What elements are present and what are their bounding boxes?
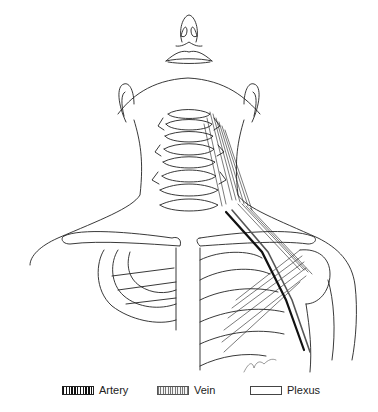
cervical-spine	[152, 110, 226, 212]
ears	[119, 84, 259, 122]
legend-item-plexus: Plexus	[250, 384, 320, 396]
jawline	[118, 78, 260, 114]
artist-signature	[244, 359, 276, 372]
neck-outline	[30, 120, 356, 360]
anatomical-illustration	[0, 0, 378, 412]
legend-item-vein: Vein	[157, 384, 215, 396]
nose	[176, 15, 202, 46]
legend-label-artery: Artery	[99, 384, 128, 396]
artery-swatch-icon	[62, 386, 94, 395]
shoulder-joint	[300, 250, 334, 372]
plexus-swatch-icon	[250, 386, 282, 395]
legend-item-artery: Artery	[62, 384, 128, 396]
legend: Artery Vein Plexus	[0, 384, 378, 404]
clavicles	[62, 232, 315, 246]
vein-swatch-icon	[157, 386, 189, 395]
mouth	[166, 51, 212, 63]
legend-label-plexus: Plexus	[287, 384, 320, 396]
rib-cage-right	[200, 248, 284, 370]
brachial-plexus	[222, 204, 312, 352]
rib-cage-left	[98, 248, 176, 330]
legend-label-vein: Vein	[194, 384, 215, 396]
scalene-muscles	[204, 112, 252, 210]
